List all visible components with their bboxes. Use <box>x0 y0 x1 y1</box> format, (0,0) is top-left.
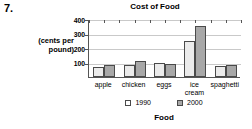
bar <box>124 65 135 77</box>
chart-title: Cost of Food <box>95 2 215 11</box>
category-label: icecream <box>179 81 209 96</box>
category-label-line1: apple <box>88 81 118 89</box>
category-label: spaghetti <box>210 81 240 89</box>
gridline-200 <box>89 49 241 50</box>
bar-group <box>89 65 119 77</box>
question-number: 7. <box>4 2 13 14</box>
bar <box>135 61 146 77</box>
y-tick-label-200: 200 <box>63 46 85 53</box>
category-label-line1: eggs <box>149 81 179 89</box>
bar-group <box>180 26 210 77</box>
legend-swatch-1990 <box>125 100 131 106</box>
legend-swatch-2000 <box>177 100 183 106</box>
bar <box>165 64 176 77</box>
x-axis-label: Food <box>88 113 240 122</box>
y-tick-label-400: 400 <box>63 17 85 24</box>
bar-group <box>211 65 241 77</box>
x-tick-mark-minor <box>195 20 196 23</box>
category-label-line1: spaghetti <box>210 81 240 89</box>
category-label-line2: cream <box>179 89 209 97</box>
category-label: apple <box>88 81 118 89</box>
x-tick-mark <box>119 20 120 23</box>
chart-legend: 19902000 <box>88 99 240 106</box>
bar-group <box>119 61 149 77</box>
x-tick-mark <box>241 20 242 23</box>
category-label: eggs <box>149 81 179 89</box>
bar <box>154 63 165 77</box>
bar <box>195 26 206 77</box>
bar <box>226 65 237 77</box>
worksheet-problem: 7. Cost of Food (cents per pound) 100200… <box>0 0 252 129</box>
x-tick-mark-minor <box>165 20 166 23</box>
x-tick-mark-minor <box>135 20 136 23</box>
x-tick-mark <box>150 20 151 23</box>
x-tick-mark <box>180 20 181 23</box>
plot-area <box>88 20 240 78</box>
legend-item-1990: 1990 <box>125 99 151 106</box>
bar <box>184 41 195 77</box>
x-tick-mark <box>89 20 90 23</box>
bar-group <box>150 63 180 77</box>
category-label-line1: chicken <box>118 81 148 89</box>
gridline-300 <box>89 35 241 36</box>
x-tick-mark-minor <box>226 20 227 23</box>
bar <box>93 67 104 77</box>
legend-label-2000: 2000 <box>187 99 203 106</box>
category-label-line1: ice <box>179 81 209 89</box>
legend-item-2000: 2000 <box>177 99 203 106</box>
category-label: chicken <box>118 81 148 89</box>
y-tick-label-100: 100 <box>63 60 85 67</box>
legend-label-1990: 1990 <box>135 99 151 106</box>
x-tick-mark-minor <box>104 20 105 23</box>
bar <box>104 65 115 77</box>
x-tick-mark <box>211 20 212 23</box>
bar <box>215 66 226 77</box>
y-tick-label-300: 300 <box>63 31 85 38</box>
